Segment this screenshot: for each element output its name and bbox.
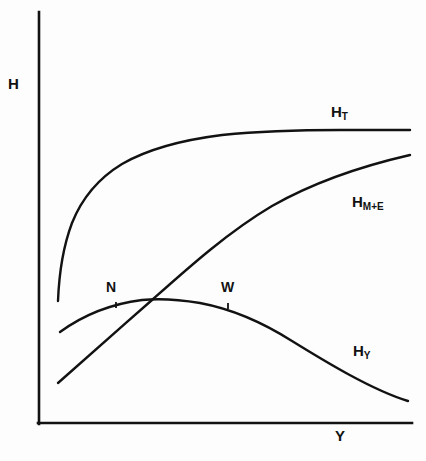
curve-label-h-total-base: H [331,103,342,120]
axes-group [38,12,412,424]
y-axis-label: H [8,76,19,91]
curve-label-h-maintenance-effort-subscript: M+E [363,201,384,212]
curve-label-h-yield-base: H [353,342,364,359]
figure-container: H Y HT HM+E HY N W [0,0,426,461]
annotation-label-w: W [221,280,234,294]
curve-label-h-yield: HY [353,343,371,358]
annotation-label-n: N [106,280,116,294]
curve-label-h-total-subscript: T [342,111,348,122]
curve-h-total [58,130,410,301]
plot-canvas [0,0,426,461]
x-axis-label: Y [335,428,345,443]
curve-label-h-total: HT [331,104,348,119]
curve-label-h-yield-subscript: Y [364,350,371,361]
curve-label-h-maintenance-effort-base: H [352,193,363,210]
curve-label-h-maintenance-effort: HM+E [352,194,384,209]
